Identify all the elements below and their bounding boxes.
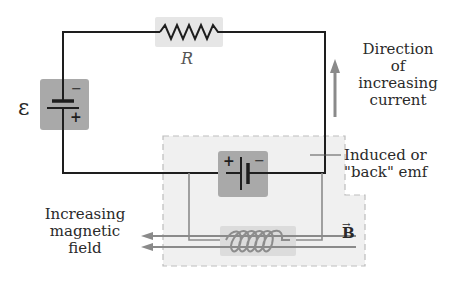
- direction-line-4: current: [348, 92, 448, 109]
- current-direction-arrow: [330, 59, 340, 117]
- field-line-2: magnetic: [30, 223, 140, 240]
- b-vector-label: → B: [342, 226, 355, 241]
- b-vector-arrow: →: [342, 217, 350, 232]
- emf-symbol: ε: [18, 96, 29, 120]
- induced-line-1: Induced or: [344, 147, 427, 164]
- emf-battery-minus: −: [71, 80, 82, 97]
- back-emf-plus: +: [223, 153, 235, 170]
- resistor-box: [155, 17, 223, 47]
- induced-emf-label: Induced or "back" emf: [344, 147, 427, 181]
- direction-line-2: of: [348, 58, 448, 75]
- field-line-3: field: [30, 240, 140, 257]
- direction-line-1: Direction: [348, 41, 448, 58]
- resistor-label: R: [181, 50, 193, 67]
- induced-line-2: "back" emf: [344, 164, 427, 181]
- emf-battery-plus: +: [70, 109, 82, 126]
- magnetic-field-label: Increasing magnetic field: [30, 206, 140, 257]
- field-line-1: Increasing: [30, 206, 140, 223]
- direction-label: Direction of increasing current: [348, 41, 448, 109]
- direction-line-3: increasing: [348, 75, 448, 92]
- back-emf-minus: −: [254, 152, 265, 169]
